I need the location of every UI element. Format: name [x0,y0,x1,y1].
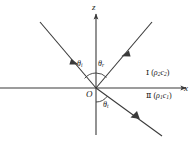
reflected-ray-arrowhead [121,51,130,57]
origin-label: O [86,90,93,99]
reflected-angle-subscript: r [102,62,104,68]
incident-angle-subscript: i [81,62,83,68]
lower-medium-numeral: Ⅱ [146,91,151,100]
lower-medium-label: Ⅱ (ρ1c1) [146,92,172,101]
transmitted-ray-arrowhead [131,111,140,119]
lower-medium-close-paren: ) [169,91,172,100]
x-axis-label: x [184,84,188,93]
transmitted-angle-subscript: t [107,103,109,109]
upper-medium-numeral: Ⅰ [146,68,149,77]
reflected-angle-label: θr [98,60,104,69]
z-axis-label: z [92,3,96,12]
incident-ray [40,22,96,88]
upper-medium-close-paren: ) [167,68,170,77]
incident-angle-label: θi [77,60,82,69]
physics-diagram-figure: z x O θi θr θt Ⅰ (ρ2c2) Ⅱ (ρ1c1) [0,0,196,146]
ray-group [40,22,162,136]
upper-medium-label: Ⅰ (ρ2c2) [146,69,169,78]
transmitted-angle-label: θt [103,101,108,110]
incident-angle-arc [85,73,96,78]
